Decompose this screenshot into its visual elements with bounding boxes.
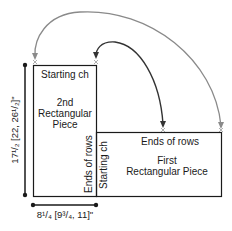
width-dimension-line (31, 203, 98, 207)
height-dimension-label: 17¹/₂ [22, 26¹/₂]" (9, 96, 20, 163)
second-piece-title-line-2: Rectangular (38, 108, 93, 119)
first-piece-title-line-1: First (157, 155, 177, 166)
second-piece-ends-of-rows-label: Ends of rows (83, 135, 94, 193)
first-piece-title-line-2: Rectangular Piece (126, 166, 208, 177)
dark-arc-arrow (93, 42, 163, 124)
first-piece-ends-of-rows-label: Ends of rows (141, 136, 199, 147)
dark-arrowhead-icon (160, 121, 166, 128)
second-piece-title-line-3: Piece (52, 119, 77, 130)
first-piece-starting-ch-label: Starting ch (98, 141, 109, 189)
seaming-diagram: Starting ch 2nd Rectangular Piece Ends o… (0, 0, 232, 231)
height-dimension-line (23, 63, 27, 197)
width-dimension-label: 8¹/₄ [9³/₄, 11]" (37, 209, 93, 220)
second-piece-starting-ch-label: Starting ch (41, 69, 89, 80)
second-piece-title-line-1: 2nd (57, 97, 74, 108)
